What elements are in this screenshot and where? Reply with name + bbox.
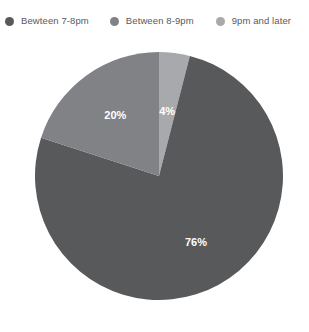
pie-slice-value-label: 76% <box>185 236 207 248</box>
legend-dot-9pm-and-later <box>216 17 225 26</box>
legend-label-between-7-8pm: Bewteen 7-8pm <box>21 16 89 26</box>
legend-item-9pm-and-later[interactable]: 9pm and later <box>216 16 291 26</box>
legend-label-9pm-and-later: 9pm and later <box>232 16 291 26</box>
legend-item-between-8-9pm[interactable]: Between 8-9pm <box>110 16 194 26</box>
chart-legend: Bewteen 7-8pm Between 8-9pm 9pm and late… <box>0 0 309 42</box>
legend-label-between-8-9pm: Between 8-9pm <box>126 16 194 26</box>
pie-chart: 4%76%20% <box>0 42 309 332</box>
pie-slices <box>35 52 283 300</box>
pie-slice-value-label: 20% <box>104 109 126 121</box>
legend-item-between-7-8pm[interactable]: Bewteen 7-8pm <box>5 16 89 26</box>
pie-chart-svg: 4%76%20% <box>0 42 309 332</box>
legend-dot-between-7-8pm <box>5 17 14 26</box>
legend-dot-between-8-9pm <box>110 17 119 26</box>
pie-slice-value-label: 4% <box>159 105 175 117</box>
